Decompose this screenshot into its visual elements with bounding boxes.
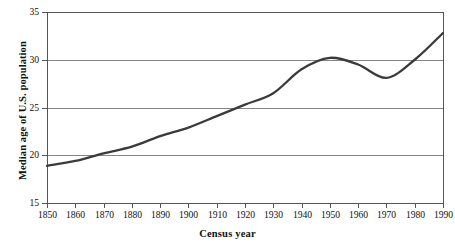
data-series-line bbox=[47, 33, 443, 166]
axis-frame bbox=[48, 13, 444, 204]
gridlines bbox=[47, 61, 443, 156]
y-tick-label-30: 30 bbox=[3, 54, 39, 65]
y-tick-label-20: 20 bbox=[3, 149, 39, 160]
x-tick-label-1990: 1990 bbox=[424, 209, 455, 220]
x-axis-title: Census year bbox=[0, 228, 455, 239]
chart-figure: Median age of U.S. population Census yea… bbox=[0, 0, 455, 250]
y-axis-ticks bbox=[42, 13, 47, 204]
y-tick-label-35: 35 bbox=[3, 6, 39, 17]
y-tick-label-15: 15 bbox=[3, 197, 39, 208]
y-tick-label-25: 25 bbox=[3, 102, 39, 113]
